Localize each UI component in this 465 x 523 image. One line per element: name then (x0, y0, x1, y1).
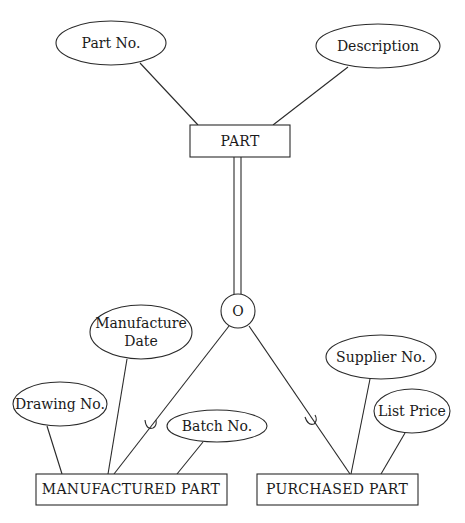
attribute-label: Drawing No. (15, 396, 105, 412)
line-drawingno (47, 426, 62, 474)
line-batchno (177, 442, 203, 474)
overlap-circle: O (221, 294, 255, 328)
attribute-label: Batch No. (182, 418, 252, 434)
line-listprice (381, 433, 405, 474)
overlap-symbol: O (232, 303, 243, 319)
entity-label: MANUFACTURED PART (42, 481, 221, 497)
attribute-manufacture-date: Manufacture Date (90, 305, 192, 359)
attribute-label: Supplier No. (336, 349, 426, 365)
attribute-list-price: List Price (374, 389, 450, 433)
attribute-batch-no: Batch No. (167, 410, 267, 442)
attribute-label: Part No. (82, 35, 141, 51)
attribute-description: Description (316, 24, 440, 68)
line-supplierno (351, 379, 370, 474)
attribute-part-no: Part No. (56, 21, 166, 65)
attribute-drawing-no: Drawing No. (13, 382, 107, 426)
entity-purchased-part: PURCHASED PART (257, 474, 418, 505)
attribute-label: List Price (378, 403, 446, 419)
attribute-label: Description (337, 38, 419, 54)
attribute-supplier-no: Supplier No. (326, 335, 436, 379)
attribute-label-line1: Manufacture (95, 315, 187, 331)
line-partno-part (140, 63, 198, 125)
entity-manufactured-part: MANUFACTURED PART (36, 474, 227, 505)
line-manufacturedate (108, 359, 127, 474)
entity-part: PART (190, 125, 290, 157)
er-diagram: Part No. Description PART O Manufacture … (0, 0, 465, 523)
entity-label: PART (220, 133, 259, 149)
line-description-part (273, 67, 348, 125)
attribute-label-line2: Date (124, 333, 157, 349)
entity-label: PURCHASED PART (266, 481, 408, 497)
